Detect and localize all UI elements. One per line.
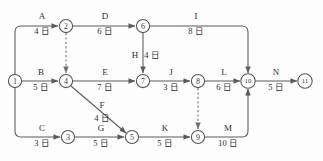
activity-label-d: D: [102, 12, 109, 21]
node-1-label: 1: [13, 77, 17, 86]
activity-label-n: N: [273, 68, 280, 77]
activity-duration-d: 6 日: [97, 27, 112, 36]
activity-duration-g: 5 日: [93, 139, 108, 148]
activity-duration-a: 4 日: [34, 27, 49, 36]
node-11[interactable]: 11: [298, 74, 312, 88]
activity-duration-f: 4 日: [94, 114, 109, 123]
activity-label-c: C: [39, 124, 45, 133]
node-9-label: 9: [196, 133, 200, 142]
activity-duration-b: 5 日: [33, 83, 48, 92]
activity-label-l: L: [221, 68, 227, 77]
activity-duration-c: 3 日: [34, 139, 49, 148]
network-graph-canvas: 1 2 3 4 5 6 7 8: [0, 0, 323, 161]
edge-activity-c: [15, 88, 60, 137]
activity-label-h: H: [132, 51, 139, 60]
activity-label-e: E: [102, 68, 108, 77]
activity-duration-h: 4 日: [144, 51, 159, 60]
node-2[interactable]: 2: [59, 19, 72, 32]
activity-duration-m: 10 日: [218, 139, 238, 148]
activity-label-m: M: [224, 124, 232, 133]
activity-duration-i: 8 日: [188, 27, 203, 36]
activity-duration-j: 3 日: [163, 83, 178, 92]
node-6[interactable]: 6: [136, 19, 149, 32]
node-4[interactable]: 4: [59, 74, 72, 87]
activity-label-b: B: [38, 68, 44, 77]
activity-duration-l: 6 日: [216, 83, 231, 92]
node-7-label: 7: [141, 77, 145, 86]
node-4-label: 4: [64, 77, 68, 86]
network-diagram: 1 2 3 4 5 6 7 8: [0, 0, 323, 161]
node-5-label: 5: [130, 133, 134, 142]
node-7[interactable]: 7: [136, 74, 149, 87]
node-9[interactable]: 9: [191, 130, 204, 143]
activity-duration-e: 7 日: [97, 83, 112, 92]
node-10[interactable]: 10: [241, 74, 255, 88]
activity-label-j: J: [169, 68, 173, 77]
activity-label-i: I: [195, 12, 198, 21]
activity-duration-k: 5 日: [157, 139, 172, 148]
node-2-label: 2: [64, 22, 68, 31]
activity-label-k: K: [162, 124, 169, 133]
node-3-label: 3: [66, 133, 70, 142]
activity-label-f: F: [99, 101, 104, 110]
node-8-label: 8: [196, 77, 200, 86]
activity-duration-n: 5 日: [268, 83, 283, 92]
node-1[interactable]: 1: [8, 74, 21, 87]
activity-label-a: A: [39, 12, 46, 21]
node-11-label: 11: [302, 77, 309, 85]
activity-label-g: G: [98, 124, 105, 133]
node-10-label: 10: [245, 77, 253, 85]
node-6-label: 6: [141, 22, 145, 31]
node-5[interactable]: 5: [125, 130, 138, 143]
node-3[interactable]: 3: [61, 130, 74, 143]
node-8[interactable]: 8: [191, 74, 204, 87]
